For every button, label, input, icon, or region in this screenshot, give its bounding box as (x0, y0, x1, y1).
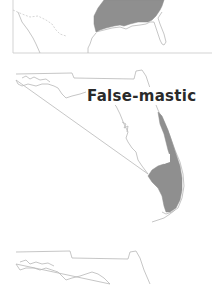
map-florida-partial (0, 238, 218, 288)
map-southeast-us-svg (0, 0, 218, 58)
coastline-bay (122, 122, 128, 132)
coastline-islands (20, 260, 54, 266)
coastline-texas (88, 33, 96, 53)
coastline-mexico (18, 12, 40, 53)
state-border (13, 10, 66, 36)
map-florida-partial-svg (0, 238, 218, 288)
map-southeast-us (0, 0, 218, 58)
florida-outline (16, 251, 150, 284)
species-label: False-mastic (86, 87, 197, 105)
coastline-islands (22, 76, 50, 82)
